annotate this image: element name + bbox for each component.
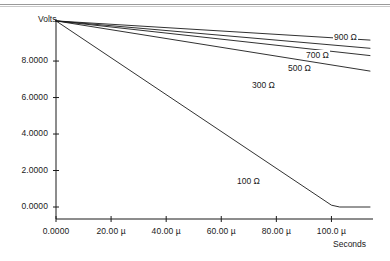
- series-line: [56, 21, 370, 71]
- y-tick-label: 6.0000: [0, 92, 48, 102]
- y-tick-label: 2.0000: [0, 165, 48, 175]
- y-tick-label: 4.0000: [0, 128, 48, 138]
- x-axis-title: Seconds: [333, 239, 366, 249]
- plot-canvas: [0, 0, 390, 261]
- series-line: [56, 21, 370, 40]
- series-group: [56, 21, 370, 207]
- y-axis-title: Volts: [38, 14, 56, 24]
- y-tick-label: 0.0000: [0, 201, 48, 211]
- series-annotation: 500 Ω: [287, 63, 312, 73]
- series-annotation: 100 Ω: [236, 176, 261, 186]
- series-line: [56, 21, 370, 207]
- series-line: [56, 21, 370, 48]
- chart-container: Volts Seconds 0.00002.00004.00006.00008.…: [0, 0, 390, 261]
- series-annotation: 300 Ω: [251, 80, 276, 90]
- series-annotation: 700 Ω: [305, 50, 330, 60]
- y-tick-label: 8.0000: [0, 55, 48, 65]
- series-annotation: 900 Ω: [333, 32, 358, 42]
- x-tick-label: 100.0 µ: [291, 226, 371, 236]
